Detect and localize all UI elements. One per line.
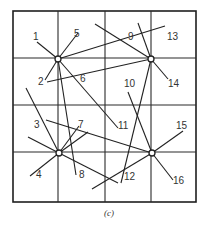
line-label: 7: [78, 119, 84, 130]
line-label: 16: [173, 175, 185, 186]
node-A: [55, 56, 61, 62]
connection-line: [59, 132, 88, 153]
diagram-canvas: 15269131410371115481216 (c): [0, 0, 204, 230]
line-label: 2: [38, 76, 44, 87]
connection-line: [151, 59, 168, 79]
line-label: 13: [167, 31, 179, 42]
connection-line: [45, 59, 58, 80]
line-label: 9: [128, 31, 134, 42]
connection-line: [152, 131, 183, 153]
line-label: 4: [36, 169, 42, 180]
line-label: 12: [124, 171, 136, 182]
connection-line: [92, 153, 152, 189]
connection-line: [152, 153, 173, 180]
connection-line: [30, 153, 59, 176]
node-C: [56, 150, 62, 156]
connection-line: [26, 88, 59, 153]
line-label: 11: [118, 120, 129, 131]
connection-line: [128, 92, 152, 153]
line-label: 6: [80, 73, 86, 84]
node-D: [149, 150, 155, 156]
connection-line: [46, 120, 152, 153]
line-label: 5: [74, 28, 80, 39]
line-label: 3: [34, 119, 40, 130]
connection-line: [37, 42, 58, 59]
line-label: 8: [79, 169, 85, 180]
connection-line: [138, 23, 151, 59]
line-label: 1: [33, 31, 39, 42]
line-label: 14: [168, 78, 180, 89]
line-label: 15: [176, 120, 188, 131]
node-B: [148, 56, 154, 62]
line-labels: 15269131410371115481216: [33, 28, 188, 186]
connection-line: [47, 59, 151, 82]
line-label: 10: [124, 78, 136, 89]
figure-caption: (c): [104, 208, 114, 218]
connection-line: [95, 24, 151, 59]
